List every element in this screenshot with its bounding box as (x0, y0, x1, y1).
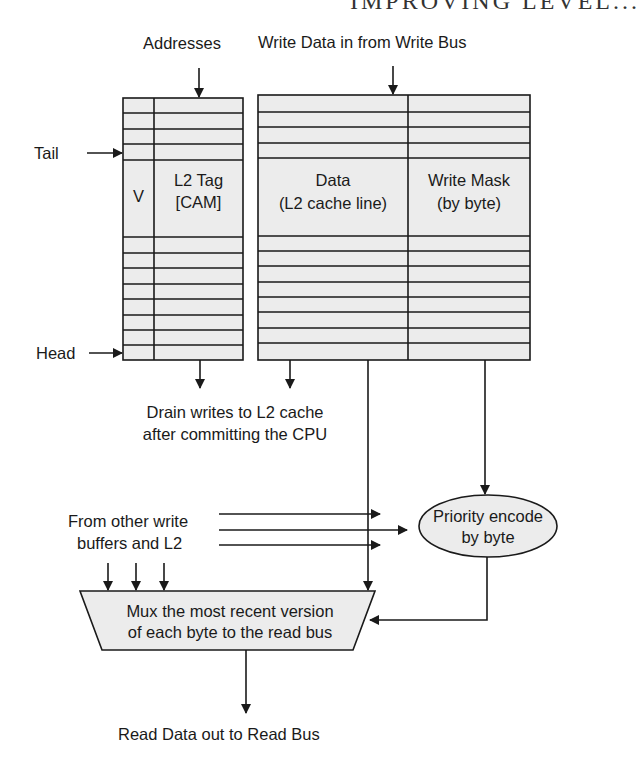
tag-array (123, 98, 243, 360)
read-data-out-label: Read Data out to Read Bus (118, 724, 320, 744)
write-mask-label: Write Mask (408, 170, 530, 190)
priority-by-byte-label: by byte (419, 527, 557, 547)
other-buffers-label-2: buffers and L2 (77, 533, 182, 553)
tail-label: Tail (34, 143, 59, 163)
data-array (258, 95, 530, 360)
mux-label-2: of each byte to the read bus (90, 622, 370, 642)
drain-writes-label: Drain writes to L2 cache (120, 402, 350, 422)
mux-label: Mux the most recent version (90, 601, 370, 621)
addresses-label: Addresses (143, 33, 221, 53)
priority-encoder (419, 495, 557, 557)
data-label: Data (258, 170, 408, 190)
by-byte-label: (by byte) (408, 193, 530, 213)
cam-label: [CAM] (154, 192, 243, 212)
drain-writes-label-2: after committing the CPU (120, 424, 350, 444)
head-label: Head (36, 343, 75, 363)
valid-column-label: V (123, 186, 154, 206)
l2-tag-label: L2 Tag (154, 170, 243, 190)
priority-to-mux-arrow (370, 557, 487, 620)
other-buffers-label: From other write (68, 511, 188, 531)
cache-line-label: (L2 cache line) (258, 193, 408, 213)
write-data-in-label: Write Data in from Write Bus (258, 32, 466, 52)
priority-encode-label: Priority encode (419, 506, 557, 526)
